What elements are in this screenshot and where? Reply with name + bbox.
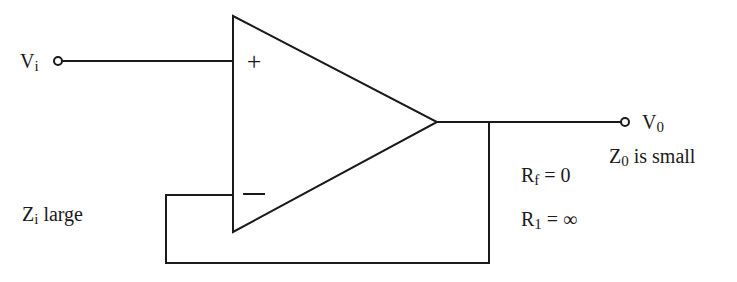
feedback-resistor-label: Rf = 0 — [521, 164, 571, 188]
input-impedance-label: Zi large — [22, 203, 83, 227]
output-terminal — [621, 118, 629, 126]
output-impedance-label: Z0 is small — [609, 145, 696, 169]
op-amp-triangle — [233, 16, 437, 232]
load-resistor-label: R1 = ∞ — [521, 208, 577, 232]
input-label: Vi — [20, 50, 39, 74]
input-terminal — [54, 57, 62, 65]
output-label: V0 — [642, 111, 664, 135]
feedback-wire — [166, 122, 489, 263]
op-amp-voltage-follower-diagram: + Vi V0 Z0 is small Rf = 0 R1 = ∞ Zi lar… — [0, 0, 737, 282]
non-inverting-sign: + — [247, 47, 262, 76]
